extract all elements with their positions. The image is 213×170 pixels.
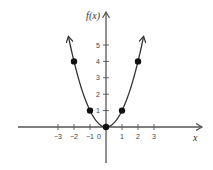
parabola-curve-right	[106, 36, 144, 127]
origin-label: 0	[97, 133, 101, 140]
x-tick-label: 2	[136, 133, 140, 140]
parabola-curve	[68, 36, 106, 127]
y-tick-label: 2	[96, 91, 100, 98]
y-axis-label: f(x)	[86, 10, 101, 22]
data-point	[103, 124, 109, 130]
data-point	[135, 58, 141, 64]
data-point	[87, 107, 93, 113]
y-tick-label: 5	[96, 42, 100, 49]
y-tick-label: 1	[96, 107, 100, 114]
data-point	[71, 58, 77, 64]
y-tick-label: 3	[96, 74, 100, 81]
x-tick-label: −3	[54, 133, 62, 140]
parabola-chart: −3−2−1123 12345 0 x f(x)	[0, 0, 213, 170]
y-ticks: 12345	[96, 42, 109, 115]
data-point	[119, 107, 125, 113]
x-tick-label: −1	[86, 133, 94, 140]
x-tick-label: 3	[152, 133, 156, 140]
x-axis-label: x	[192, 132, 198, 143]
x-tick-label: 1	[120, 133, 124, 140]
y-tick-label: 4	[96, 58, 100, 65]
x-tick-label: −2	[70, 133, 78, 140]
